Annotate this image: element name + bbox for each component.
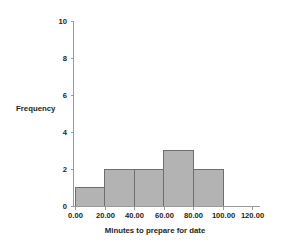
x-tick-label: 60.00 — [155, 211, 174, 220]
x-tick-label: 80.00 — [184, 211, 203, 220]
y-tick-label: 4 — [63, 128, 68, 137]
x-tick-label: 20.00 — [96, 211, 115, 220]
x-tick-label: 0.00 — [68, 211, 83, 220]
histogram-bar — [75, 188, 105, 206]
histogram-bar — [105, 169, 135, 206]
x-tick-label: 40.00 — [125, 211, 144, 220]
y-tick-label: 10 — [59, 17, 67, 26]
histogram-bar — [134, 169, 164, 206]
x-axis-tick-labels: 0.00 20.00 40.00 60.00 80.00 100.00 120.… — [68, 211, 264, 220]
histogram-figure: 0 2 4 6 8 10 0.00 20.00 40.00 60.00 80.0… — [0, 0, 288, 246]
histogram-bar — [193, 169, 223, 206]
y-axis-tick-labels: 0 2 4 6 8 10 — [59, 17, 68, 211]
y-tick-label: 2 — [63, 165, 67, 174]
bar-series — [75, 151, 223, 206]
histogram-plot-area: 0 2 4 6 8 10 0.00 20.00 40.00 60.00 80.0… — [0, 0, 288, 246]
y-tick-label: 6 — [63, 91, 67, 100]
x-tick-label: 100.00 — [212, 211, 235, 220]
y-tick-label: 8 — [63, 54, 67, 63]
y-tick-label: 0 — [63, 202, 67, 211]
histogram-bar — [164, 151, 194, 206]
x-tick-label: 120.00 — [241, 211, 264, 220]
x-axis-title: Minutes to prepare for date — [105, 226, 206, 235]
y-axis-title: Frequency — [16, 104, 56, 113]
